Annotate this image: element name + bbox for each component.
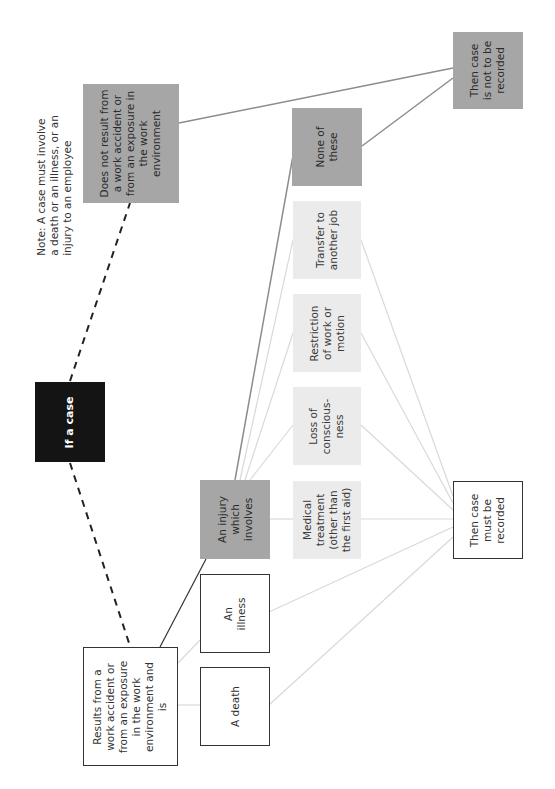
- edge-injury-none: [235, 150, 294, 480]
- edge-restriction-must: [361, 333, 453, 503]
- node-label: Loss of conscious- ness: [307, 398, 346, 453]
- node-loss-of-consciousness: Loss of conscious- ness: [293, 387, 361, 465]
- note-text: Note: A case must involve a death or an …: [30, 120, 78, 250]
- edge-loss-must: [361, 425, 453, 510]
- node-if-a-case: If a case: [35, 382, 105, 462]
- node-label: Does not result from a work accident or …: [99, 90, 164, 198]
- node-medical-treatment: Medical treatment (other than the first …: [293, 481, 361, 559]
- edge-results-illness: [178, 640, 200, 663]
- node-label: An injury which involves: [215, 496, 254, 543]
- node-not-to-be-recorded: Then case is not to be recorded: [453, 32, 523, 109]
- node-must-be-recorded: Then case must be recorded: [453, 481, 523, 559]
- node-label: Then case is not to be recorded: [468, 41, 507, 100]
- node-label: Transfer to another job: [314, 210, 340, 270]
- node-restriction: Restriction of work or motion: [293, 294, 361, 372]
- edge-injury-transfer: [240, 240, 293, 480]
- node-label: An illness: [222, 597, 248, 630]
- node-label: None of these: [314, 127, 340, 168]
- node-a-death: A death: [200, 667, 270, 746]
- edge-ifcase-notwork: [70, 203, 130, 381]
- node-none-of-these: None of these: [292, 108, 362, 186]
- edge-injury-loss: [250, 425, 293, 480]
- node-an-illness: An illness: [200, 574, 270, 653]
- edge-injury-restriction: [245, 333, 293, 480]
- node-an-injury: An injury which involves: [200, 480, 270, 559]
- edge-transfer-must: [361, 240, 453, 496]
- node-label: A death: [228, 686, 241, 727]
- node-label: If a case: [63, 396, 76, 448]
- node-does-not-result: Does not result from a work accident or …: [83, 84, 179, 203]
- node-label: Restriction of work or motion: [308, 305, 347, 361]
- note-label: Note: A case must involve a death or an …: [35, 115, 74, 256]
- edge-ifcase-results: [70, 463, 130, 646]
- node-label: Then case must be recorded: [468, 493, 507, 547]
- node-results-from: Results from a work accident or from an …: [83, 647, 178, 766]
- node-transfer: Transfer to another job: [293, 201, 361, 279]
- node-label: Results from a work accident or from an …: [91, 660, 169, 752]
- edge-death-must: [269, 537, 453, 705]
- edge-none-notrecord: [362, 78, 453, 146]
- node-label: Medical treatment (other than the first …: [301, 488, 353, 553]
